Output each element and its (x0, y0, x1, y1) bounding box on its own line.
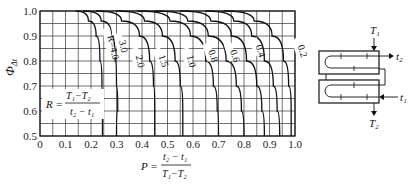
r-formula-lhs: R = (45, 98, 63, 110)
y-axis-subscript: Δt (10, 58, 19, 67)
lower-u-tube (325, 85, 379, 97)
x-tick-label: 0.4 (135, 138, 149, 150)
y-tick-labels: 0.50.60.70.80.91.0 (23, 5, 37, 142)
x-tick-labels: 00.10.20.30.40.50.60.70.80.91.0 (37, 138, 302, 150)
r-formula-denominator: t₂ − t₁ (70, 106, 94, 117)
curve-label: 1.0 (185, 54, 199, 69)
exchanger-diagram (319, 38, 398, 116)
x-tick-label: 0.2 (84, 138, 98, 150)
p-formula-numerator: t₂ − t₁ (163, 151, 187, 162)
upper-u-tube (325, 56, 379, 68)
chart: 00.10.20.30.40.50.60.70.80.91.0 0.50.60.… (0, 0, 412, 188)
lower-shell (319, 80, 379, 103)
label-t2: t₂ (396, 50, 403, 62)
y-axis-label: Φ Δt (2, 58, 19, 76)
y-tick-label: 0.7 (23, 80, 37, 92)
p-formula: P = t₂ − t₁ T₁−T₂ (140, 151, 191, 179)
upper-shell (319, 51, 379, 74)
x-tick-label: 0 (37, 138, 43, 150)
x-tick-label: 0.1 (59, 138, 73, 150)
x-tick-label: 0.6 (186, 138, 200, 150)
y-tick-label: 0.9 (23, 30, 37, 42)
label-T2: T₂ (369, 117, 379, 129)
y-tick-label: 0.5 (23, 130, 37, 142)
x-tick-label: 1.0 (288, 138, 302, 150)
label-t1: t₁ (400, 91, 407, 103)
r-formula-numerator: T₁−T₂ (66, 90, 91, 101)
x-tick-label: 0.5 (161, 138, 175, 150)
p-formula-lhs: P = (140, 160, 158, 172)
p-formula-denominator: T₁−T₂ (162, 168, 187, 179)
y-tick-label: 0.6 (23, 105, 37, 117)
y-tick-label: 1.0 (23, 5, 37, 17)
label-T1: T₁ (370, 24, 380, 36)
y-axis-symbol: Φ (2, 66, 17, 76)
x-tick-label: 0.9 (263, 138, 277, 150)
x-tick-label: 0.8 (237, 138, 251, 150)
y-tick-label: 0.8 (23, 55, 37, 67)
x-tick-label: 0.7 (212, 138, 226, 150)
r-formula: R = T₁−T₂ t₂ − t₁ (42, 89, 104, 119)
x-tick-label: 0.3 (110, 138, 124, 150)
curve-label: 2.0 (134, 54, 147, 69)
